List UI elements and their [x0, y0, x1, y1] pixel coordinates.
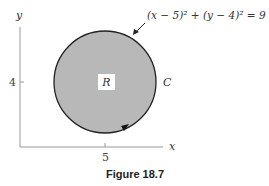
- figure-caption: Figure 18.7: [106, 168, 164, 180]
- pointer-line: [136, 23, 145, 32]
- figure-diagram: R C y x 4 5 (x − 5)² + (y − 4)² = 9 Figu…: [0, 0, 269, 186]
- y-axis-label: y: [15, 9, 23, 22]
- equation-label: (x − 5)² + (y − 4)² = 9: [147, 9, 266, 21]
- y-tick-label: 4: [9, 76, 16, 89]
- curve-label: C: [163, 76, 172, 89]
- x-axis-label: x: [169, 140, 176, 153]
- region-label: R: [101, 76, 110, 89]
- x-tick-label: 5: [102, 151, 109, 164]
